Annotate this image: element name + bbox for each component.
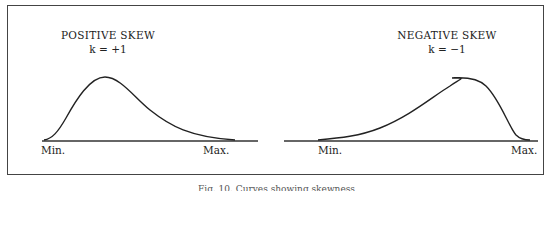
negative-skew-title: NEGATIVE SKEW bbox=[367, 29, 527, 41]
positive-skew-curve bbox=[44, 77, 235, 140]
negative-skew-max-label: Max. bbox=[511, 144, 537, 156]
negative-skew-curve bbox=[318, 78, 530, 140]
positive-skew-max-label: Max. bbox=[203, 144, 229, 156]
positive-skew-title: POSITIVE SKEW bbox=[28, 29, 188, 41]
negative-skew-min-label: Min. bbox=[318, 144, 342, 156]
figure-caption: Fig. 10. Curves showing skewness bbox=[0, 184, 553, 191]
positive-skew-k-value: k = +1 bbox=[28, 43, 188, 55]
positive-skew-min-label: Min. bbox=[41, 144, 65, 156]
negative-skew-k-value: k = −1 bbox=[367, 43, 527, 55]
